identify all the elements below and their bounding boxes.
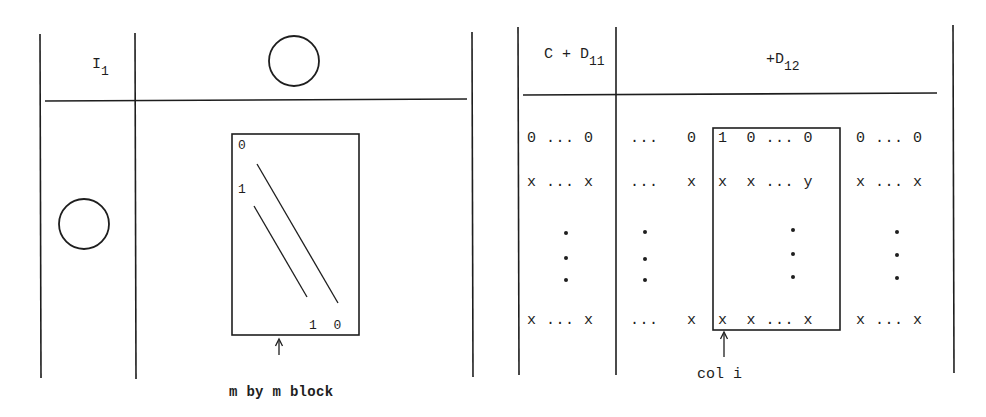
identity-symbol: I: [92, 56, 101, 73]
identity-subscript: 1: [101, 64, 109, 79]
main-diagonal-line: [254, 206, 307, 297]
left-matrix-frame: [40, 32, 473, 379]
left-right-border: [472, 32, 473, 377]
left-outer-border: [40, 34, 41, 378]
row1-col-b: ... 0: [630, 131, 697, 146]
row1-col-d: 0 ... 0: [856, 131, 923, 146]
diagram-lines: [0, 0, 986, 417]
block-arrow-icon: [276, 339, 283, 355]
upper-diagonal-line: [257, 164, 338, 303]
identity-block-label: I1: [74, 42, 109, 72]
m-by-m-block-box: [232, 134, 359, 335]
last-row-col-a: x ... x: [527, 313, 594, 328]
last-row-col-b: ... x: [630, 313, 697, 328]
right-outer-border: [518, 27, 519, 375]
right-right-border: [953, 25, 954, 373]
right-row-divider: [523, 93, 937, 95]
block-top-left-zero: 0: [238, 139, 246, 152]
d11-subscript: 11: [589, 54, 605, 69]
block-row-two-one: 1: [238, 183, 246, 196]
plus-d-text: +D: [766, 51, 784, 68]
c-plus-d-text: C + D: [544, 46, 589, 63]
row1-col-a: 0 ... 0: [527, 131, 594, 146]
c-plus-d11-header: C + D11: [526, 32, 605, 62]
m-by-m-block-caption: m by m block: [229, 385, 333, 399]
column-i-box: [713, 128, 840, 330]
row2-col-b: ... x: [630, 175, 697, 190]
top-right-zero-circle-icon: [269, 36, 319, 86]
block-bottom-right-labels: 1 0: [309, 319, 341, 332]
row2-col-d: x ... x: [856, 175, 923, 190]
col-i-caption: col i: [697, 367, 742, 382]
last-row-col-c: x x ... x: [718, 313, 813, 328]
row1-col-c: 1 0 ... 0: [718, 131, 813, 146]
last-row-col-d: x ... x: [856, 313, 923, 328]
left-row-divider: [45, 99, 467, 101]
d12-subscript: 12: [784, 59, 800, 74]
left-column-divider: [135, 33, 136, 379]
row2-col-c: x x ... y: [718, 175, 813, 190]
row2-col-a: x ... x: [527, 175, 594, 190]
col-i-arrow-icon: [721, 332, 728, 357]
plus-d12-header: +D12: [748, 37, 800, 67]
bottom-left-zero-circle-icon: [59, 199, 109, 249]
